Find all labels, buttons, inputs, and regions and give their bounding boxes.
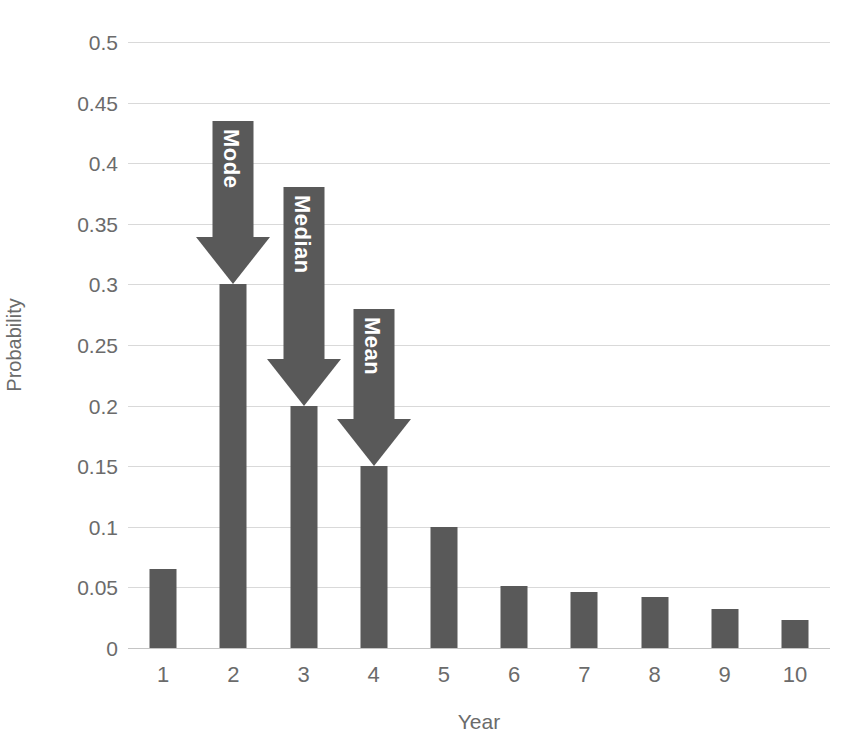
bar-year-1 — [150, 569, 177, 648]
x-tick-label: 3 — [274, 664, 334, 686]
y-tick-label: 0.4 — [28, 153, 118, 174]
y-tick-label: 0.05 — [28, 577, 118, 598]
annotation-label: Mean — [359, 317, 385, 375]
y-tick-label: 0.1 — [28, 516, 118, 537]
bar-year-9 — [711, 609, 738, 648]
y-tick-label: 0.35 — [28, 213, 118, 234]
arrow-head-icon — [267, 359, 341, 406]
x-tick-label: 10 — [765, 664, 825, 686]
y-axis-title: Probability — [3, 298, 26, 391]
plot-area: 0.5 0.45 0.4 0.35 0.3 0.25 0.2 0.15 0.1 … — [128, 42, 830, 648]
probability-bar-chart: 0.5 0.45 0.4 0.35 0.3 0.25 0.2 0.15 0.1 … — [0, 0, 865, 755]
x-tick-label: 9 — [695, 664, 755, 686]
x-tick-label: 6 — [484, 664, 544, 686]
axis-baseline — [128, 648, 830, 649]
x-tick-label: 4 — [344, 664, 404, 686]
arrow-head-icon — [337, 419, 411, 466]
bar-year-7 — [571, 592, 598, 648]
x-tick-label: 7 — [554, 664, 614, 686]
arrow-head-icon — [196, 237, 270, 284]
y-tick-label: 0.5 — [28, 32, 118, 53]
y-tick-label: 0.45 — [28, 92, 118, 113]
x-tick-label: 5 — [414, 664, 474, 686]
bar-year-6 — [501, 586, 528, 648]
bar-year-5 — [430, 527, 457, 648]
gridline — [128, 42, 830, 43]
x-axis-title: Year — [128, 710, 830, 734]
bar-year-4 — [360, 466, 387, 648]
gridline — [128, 103, 830, 104]
y-tick-label: 0.15 — [28, 456, 118, 477]
annotation-label: Mode — [218, 129, 244, 188]
bar-year-8 — [641, 597, 668, 648]
annotation-label: Median — [289, 195, 315, 274]
bar-year-3 — [290, 406, 317, 648]
x-tick-label: 8 — [625, 664, 685, 686]
y-tick-label: 0 — [28, 638, 118, 659]
y-tick-label: 0.3 — [28, 274, 118, 295]
x-tick-label: 2 — [203, 664, 263, 686]
y-tick-label: 0.25 — [28, 335, 118, 356]
bar-year-2 — [220, 284, 247, 648]
bar-year-10 — [781, 620, 808, 648]
y-tick-label: 0.2 — [28, 395, 118, 416]
x-tick-label: 1 — [133, 664, 193, 686]
